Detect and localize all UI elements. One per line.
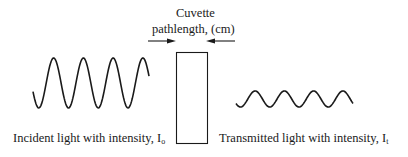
incident-label-text: Incident light with intensity, I (13, 131, 161, 145)
transmitted-subscript: t (386, 137, 388, 146)
arrow-left-icon (206, 39, 235, 44)
pathlength-label: pathlength, (cm) (152, 22, 235, 36)
transmitted-label-text: Transmitted light with intensity, I (219, 131, 386, 145)
arrow-right-icon (148, 39, 176, 44)
transmitted-light-label: Transmitted light with intensity, It (219, 131, 388, 149)
incident-light-label: Incident light with intensity, Io (13, 131, 165, 149)
incident-subscript: o (161, 137, 165, 146)
transmitted-wave (236, 91, 353, 107)
incident-wave (33, 58, 149, 108)
cuvette-title: Cuvette (176, 6, 215, 20)
cuvette-rectangle (177, 53, 208, 144)
